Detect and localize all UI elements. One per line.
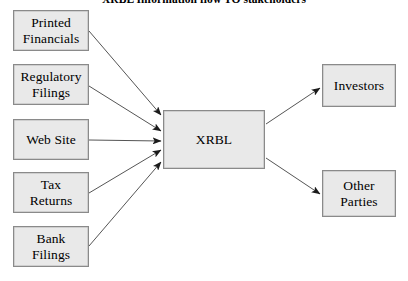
edge-xrbl-to-investors [266,88,320,124]
node-web-site[interactable]: Web Site [13,119,89,160]
node-investors[interactable]: Investors [322,64,396,107]
node-label: Web Site [24,132,78,147]
edge-web-site-to-xrbl [89,140,161,141]
node-bank-filings[interactable]: Bank Filings [13,226,89,267]
node-label: Tax Returns [28,177,75,207]
node-label: Other Parties [338,178,379,208]
node-label: Bank Filings [30,231,72,261]
node-label: Printed Financials [21,15,82,45]
node-label: XRBL [194,132,234,147]
node-printed-financials[interactable]: Printed Financials [13,10,89,51]
node-label: Regulatory Filings [19,69,84,99]
edge-xrbl-to-other-parties [266,158,320,194]
edge-bank-filings-to-xrbl [89,162,161,246]
edge-printed-financials-to-xrbl [89,31,161,115]
node-tax-returns[interactable]: Tax Returns [13,172,89,213]
diagram-canvas: XRBL Information flow TO stakeholders Pr… [0,0,408,281]
node-xrbl-hub[interactable]: XRBL [163,110,265,169]
node-label: Investors [332,78,386,93]
diagram-title: XRBL Information flow TO stakeholders [0,0,408,5]
edge-tax-returns-to-xrbl [89,150,161,193]
node-regulatory-filings[interactable]: Regulatory Filings [13,64,89,105]
node-other-parties[interactable]: Other Parties [322,170,396,217]
edge-regulatory-filings-to-xrbl [89,86,161,131]
